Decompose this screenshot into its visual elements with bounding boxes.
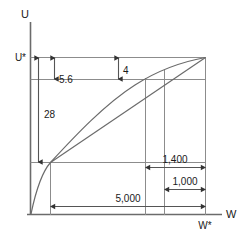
diagram-canvas: 28 5.6 4 5,000 1,400 1,000 U W — [0, 0, 241, 244]
curve-group — [31, 58, 206, 215]
annotation-4-label: 4 — [123, 65, 129, 76]
annotation-28-label: 28 — [44, 109, 56, 120]
w-star-label: W* — [198, 220, 211, 231]
utility-function-curve — [31, 58, 206, 215]
utility-curve-diagram: 28 5.6 4 5,000 1,400 1,000 U W — [0, 0, 241, 244]
y-axis-label: U — [21, 8, 29, 20]
annotation-1400-label: 1,400 — [162, 154, 187, 165]
x-axis-label: W — [226, 208, 237, 220]
annotation-5000-label: 5,000 — [115, 193, 140, 204]
annotation-4: 4 — [119, 58, 130, 79]
annotation-1000: 1,000 — [165, 176, 205, 190]
annotation-5-6-label: 5.6 — [59, 74, 73, 85]
reference-lines — [31, 58, 207, 216]
annotation-1000-label: 1,000 — [172, 176, 197, 187]
annotation-5000: 5,000 — [51, 193, 205, 207]
annotation-28: 28 — [39, 58, 56, 162]
annotation-1400: 1,400 — [146, 154, 205, 168]
u-star-label: U* — [15, 52, 26, 63]
annotation-5-6: 5.6 — [55, 58, 74, 85]
